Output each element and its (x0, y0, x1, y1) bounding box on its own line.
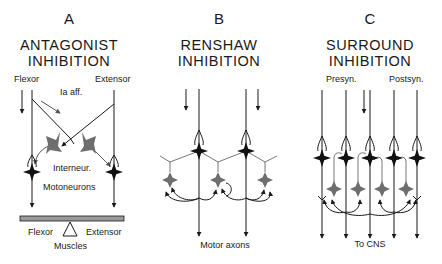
panel-c-interneuron-2 (350, 181, 366, 197)
panel-c-neuron-1 (313, 149, 331, 167)
panel-b-renshaw-cell-2 (210, 172, 226, 188)
panel-b-circuit (160, 89, 277, 236)
panel-a-interneuron-left (46, 132, 62, 154)
panel-c-interneuron-3 (374, 181, 390, 197)
panel-a-interneuron-right (80, 132, 96, 154)
panel-c-neuron-5 (408, 149, 426, 167)
panel-c-interneuron-1 (326, 181, 342, 197)
panel-c-interneuron-4 (398, 181, 414, 197)
panel-b-motoneuron-2 (237, 142, 255, 160)
fulcrum-triangle (63, 222, 77, 236)
panel-c-neuron-4 (385, 149, 403, 167)
neural-circuit-diagram (0, 0, 442, 264)
panel-a-circuit (22, 90, 118, 207)
panel-a-motoneuron-flexor (23, 163, 41, 181)
panel-b-renshaw-cell-1 (162, 172, 178, 188)
panel-b-motoneuron-1 (190, 142, 208, 160)
panel-c-neuron-2 (337, 149, 355, 167)
muscle-bar (20, 216, 124, 221)
panel-a-motoneuron-extensor (105, 163, 123, 181)
panel-c-neuron-3 (361, 149, 379, 167)
panel-b-renshaw-cell-3 (257, 172, 273, 188)
